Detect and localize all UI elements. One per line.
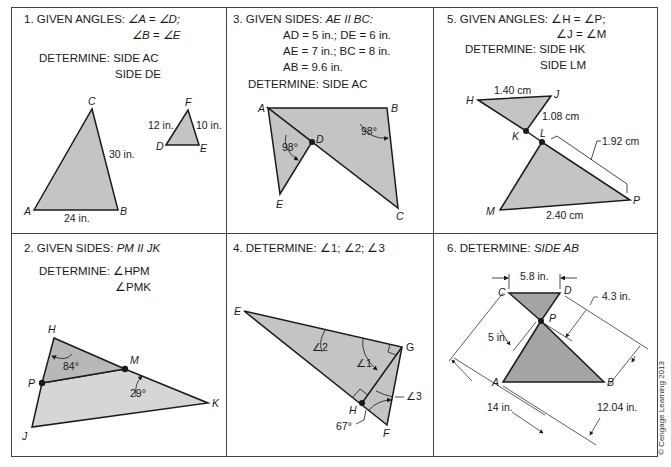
vertex-label: A — [23, 205, 31, 217]
triangle-hjk — [478, 96, 551, 131]
vertex-label: D — [316, 133, 324, 145]
dimension-label: 14 in. — [487, 401, 513, 413]
vertex-label: B — [607, 376, 614, 388]
angle-label: ∠1 — [356, 357, 372, 369]
vertex-label: E — [234, 305, 242, 317]
copyright-notice: © Cengage Learning 2013 — [657, 361, 666, 455]
vertex-label: P — [633, 194, 640, 206]
vertex-label: A — [257, 102, 265, 114]
vertex-label: D — [564, 284, 572, 296]
vertex-label: A — [491, 376, 499, 388]
dimension-label: 12.04 in. — [597, 401, 637, 413]
panel-3-diagram: A B C D E 98° 98° — [257, 102, 404, 222]
point-p — [39, 380, 45, 386]
angle-label: 84° — [63, 360, 79, 372]
angle-label: 98° — [282, 141, 298, 153]
point-l — [539, 139, 545, 145]
dimension-label: 10 in. — [196, 119, 222, 131]
vertex-label: J — [553, 88, 560, 100]
vertex-label: F — [383, 427, 390, 439]
dimension-label: 1.08 cm — [542, 110, 580, 122]
angle-label: ∠2 — [312, 341, 328, 353]
angle-label: 67° — [336, 420, 352, 432]
vertex-label: K — [512, 130, 520, 142]
point-k — [523, 128, 529, 134]
vertex-label: B — [391, 102, 398, 114]
dimension-label: 2.40 cm — [546, 209, 584, 221]
point-p — [538, 318, 544, 324]
vertex-label: P — [549, 312, 556, 324]
vertex-label: B — [120, 205, 127, 217]
dimension-label: 24 in. — [64, 212, 90, 224]
point-d — [309, 139, 315, 145]
dimension-label: 1.92 cm — [602, 135, 640, 147]
angle-label: ∠3 — [406, 390, 422, 402]
triangle-egf — [244, 311, 402, 425]
angle-label: 29° — [130, 387, 146, 399]
vertex-label: J — [21, 430, 28, 442]
panel-4-diagram: E G H F ∠1 ∠2 ∠3 67° — [234, 305, 422, 439]
dimension-label: 5.8 in. — [520, 270, 549, 282]
triangle-pab — [503, 321, 604, 382]
diagrams-canvas: A B C D E F 24 in. 30 in. 12 in. 10 in. … — [0, 0, 671, 467]
triangle-lmp — [500, 142, 630, 210]
dimension-label: 30 in. — [109, 148, 135, 160]
vertex-label: P — [28, 377, 35, 389]
vertex-label: E — [200, 142, 208, 154]
vertex-label: M — [130, 354, 139, 366]
vertex-label: G — [406, 341, 414, 353]
vertex-label: H — [48, 323, 56, 335]
panel-2-diagram: H M P K J 84° 29° — [21, 323, 220, 442]
vertex-label: E — [276, 198, 284, 210]
panel-6-diagram: C D P A B 5.8 in. 4.3 in. 5 in. 14 in. 1… — [449, 270, 648, 445]
angle-label: 98° — [361, 125, 377, 137]
triangle-abc — [34, 109, 118, 210]
vertex-label: H — [466, 94, 474, 106]
vertex-label: C — [498, 286, 506, 298]
vertex-label: L — [540, 127, 546, 139]
vertex-label: D — [156, 140, 164, 152]
vertex-label: M — [486, 205, 495, 217]
point-m — [122, 366, 128, 372]
vertex-label: F — [185, 96, 192, 108]
panel-5-diagram: H J K L M P 1.40 cm 1.08 cm 1.92 cm 2.40… — [466, 84, 640, 221]
vertex-label: C — [396, 210, 404, 222]
vertex-label: C — [88, 95, 96, 107]
panel-1-diagram: A B C D E F 24 in. 30 in. 12 in. 10 in. — [23, 95, 222, 224]
vertex-label: H — [349, 404, 357, 416]
dimension-label: 1.40 cm — [494, 84, 532, 96]
point-h — [359, 400, 365, 406]
dimension-label: 5 in. — [488, 331, 508, 343]
dimension-label: 12 in. — [148, 119, 174, 131]
dimension-label: 4.3 in. — [602, 290, 631, 302]
vertex-label: K — [212, 397, 220, 409]
